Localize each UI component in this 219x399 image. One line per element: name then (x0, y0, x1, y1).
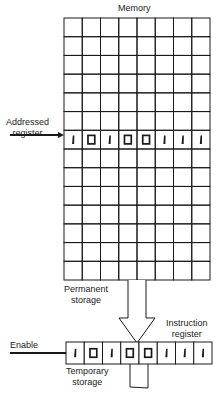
bit-zero-glyph (143, 135, 150, 144)
memory-cell (82, 74, 100, 93)
memory-cell (82, 149, 100, 168)
memory-cell (119, 224, 137, 243)
memory-cell (192, 261, 210, 280)
memory-cell (155, 186, 173, 205)
memory-cell (137, 224, 155, 243)
memory-cell (137, 93, 155, 112)
memory-cell (101, 243, 119, 262)
memory-cell (64, 243, 82, 262)
memory-cell (192, 205, 210, 224)
memory-cell (101, 55, 119, 74)
memory-cell (192, 93, 210, 112)
memory-cell (82, 55, 100, 74)
memory-cell (174, 205, 192, 224)
memory-cell (174, 112, 192, 131)
memory-cell (137, 205, 155, 224)
memory-cell (64, 186, 82, 205)
memory-cell (101, 205, 119, 224)
bit-one-glyph (163, 135, 165, 144)
memory-cell (64, 37, 82, 56)
memory-cell (64, 74, 82, 93)
bit-one-glyph (200, 135, 202, 144)
memory-cell (101, 93, 119, 112)
memory-cell (137, 18, 155, 37)
instruction-register-cell (84, 342, 102, 364)
instruction-register-cell (121, 342, 139, 364)
memory-cell (137, 149, 155, 168)
memory-cell (119, 93, 137, 112)
memory-cell (192, 74, 210, 93)
instruction-register-cell (139, 342, 157, 364)
memory-cell (192, 168, 210, 187)
memory-grid (64, 18, 210, 280)
memory-cell (192, 224, 210, 243)
memory-cell (192, 18, 210, 37)
memory-cell (155, 18, 173, 37)
memory-cell (174, 37, 192, 56)
memory-cell (137, 168, 155, 187)
memory-cell (101, 112, 119, 131)
memory-cell (64, 18, 82, 37)
memory-cell (192, 112, 210, 131)
addressed-register-cell (137, 130, 155, 149)
memory-cell (155, 112, 173, 131)
memory-cell (174, 74, 192, 93)
memory-cell (82, 186, 100, 205)
memory-cell (101, 74, 119, 93)
bit-one-glyph (182, 135, 184, 144)
memory-cell (174, 18, 192, 37)
memory-cell (119, 55, 137, 74)
bit-zero-glyph (124, 135, 131, 144)
bit-zero-glyph (88, 135, 95, 144)
memory-cell (192, 37, 210, 56)
memory-cell (137, 55, 155, 74)
memory-cell (119, 18, 137, 37)
addressed-register-cell (119, 130, 137, 149)
memory-cell (155, 168, 173, 187)
memory-cell (101, 37, 119, 56)
memory-cell (155, 261, 173, 280)
memory-cell (119, 149, 137, 168)
memory-cell (155, 243, 173, 262)
memory-cell (82, 205, 100, 224)
memory-cell (174, 55, 192, 74)
instruction-register (66, 342, 212, 364)
memory-cell (155, 149, 173, 168)
transfer-arrow-icon (119, 280, 155, 343)
memory-diagram (0, 0, 219, 399)
memory-cell (119, 112, 137, 131)
memory-cell (82, 93, 100, 112)
memory-cell (82, 112, 100, 131)
memory-cell (101, 224, 119, 243)
memory-cell (101, 149, 119, 168)
memory-cell (119, 74, 137, 93)
memory-cell (155, 93, 173, 112)
memory-cell (174, 261, 192, 280)
memory-cell (192, 243, 210, 262)
memory-cell (101, 261, 119, 280)
memory-cell (119, 168, 137, 187)
memory-cell (119, 261, 137, 280)
output-bus-line (130, 364, 148, 388)
memory-cell (101, 18, 119, 37)
memory-cell (137, 261, 155, 280)
memory-cell (174, 93, 192, 112)
memory-cell (137, 243, 155, 262)
memory-cell (119, 186, 137, 205)
addressed-register-arrow-head (58, 132, 64, 138)
bit-one-glyph (109, 135, 111, 144)
memory-cell (82, 168, 100, 187)
memory-cell (82, 261, 100, 280)
memory-cell (137, 112, 155, 131)
memory-cell (64, 168, 82, 187)
memory-cell (137, 37, 155, 56)
memory-cell (82, 243, 100, 262)
memory-cell (64, 149, 82, 168)
memory-cell (155, 205, 173, 224)
memory-cell (82, 37, 100, 56)
memory-cell (155, 55, 173, 74)
memory-cell (119, 205, 137, 224)
memory-cell (155, 224, 173, 243)
memory-cell (64, 93, 82, 112)
memory-cell (64, 261, 82, 280)
